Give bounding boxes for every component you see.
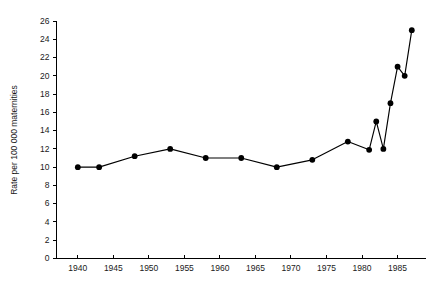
data-point	[309, 157, 315, 163]
y-tick-label: 0	[45, 253, 50, 263]
y-tick-label: 24	[40, 34, 50, 44]
x-tick-label: 1945	[104, 263, 123, 273]
x-tick-label: 1985	[388, 263, 407, 273]
series-markers	[75, 27, 415, 170]
x-tick-label: 1960	[210, 263, 229, 273]
data-point	[380, 146, 386, 152]
data-point	[96, 164, 102, 170]
data-point	[395, 64, 401, 70]
data-point	[366, 147, 372, 153]
y-tick-label: 20	[40, 71, 50, 81]
x-tick-label: 1980	[353, 263, 372, 273]
x-tick-label: 1940	[68, 263, 87, 273]
y-tick-label: 6	[45, 198, 50, 208]
x-tick-label: 1950	[139, 263, 158, 273]
data-point	[402, 73, 408, 79]
chart-plot-area: 02468101214161820222426 Rate per 100 000…	[0, 0, 440, 286]
data-point	[75, 164, 81, 170]
data-point	[409, 27, 415, 33]
data-point	[274, 164, 280, 170]
y-tick-label: 14	[40, 125, 50, 135]
y-tick-label: 8	[45, 180, 50, 190]
y-tick-label: 18	[40, 89, 50, 99]
y-tick-label: 26	[40, 16, 50, 26]
data-point	[345, 139, 351, 145]
x-axis-ticks: 1940194519501955196019651970197519801985	[68, 255, 407, 273]
series-line	[78, 30, 412, 167]
y-axis: 02468101214161820222426 Rate per 100 000…	[9, 16, 57, 264]
y-tick-label: 4	[45, 217, 50, 227]
y-tick-label: 2	[45, 235, 50, 245]
y-tick-label: 16	[40, 107, 50, 117]
x-tick-label: 1955	[175, 263, 194, 273]
x-axis: 1940194519501955196019651970197519801985	[57, 255, 427, 273]
y-tick-label: 10	[40, 162, 50, 172]
data-point	[132, 153, 138, 159]
y-tick-label: 22	[40, 52, 50, 62]
y-tick-label: 12	[40, 144, 50, 154]
data-point	[238, 155, 244, 161]
y-axis-ticks: 02468101214161820222426	[40, 16, 56, 264]
x-tick-label: 1975	[317, 263, 336, 273]
data-point	[167, 146, 173, 152]
x-tick-label: 1965	[246, 263, 265, 273]
data-point	[203, 155, 209, 161]
y-axis-title: Rate per 100 000 maternities	[9, 85, 19, 195]
data-point	[388, 100, 394, 106]
chart-figure: 02468101214161820222426 Rate per 100 000…	[0, 0, 440, 286]
x-tick-label: 1970	[282, 263, 301, 273]
data-point	[373, 119, 379, 125]
data-series	[75, 27, 415, 170]
